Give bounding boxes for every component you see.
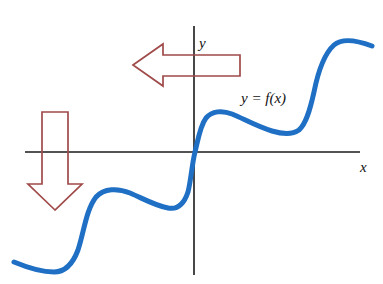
x-axis-label: x	[359, 159, 367, 175]
function-graph-figure: y x y = f(x)	[0, 0, 383, 284]
horizontal-left-arrow-icon	[133, 44, 240, 86]
graph-canvas: y x y = f(x)	[0, 0, 383, 284]
vertical-down-arrow-icon	[28, 112, 82, 210]
y-axis-label: y	[197, 35, 206, 51]
function-equation-label: y = f(x)	[239, 90, 286, 107]
